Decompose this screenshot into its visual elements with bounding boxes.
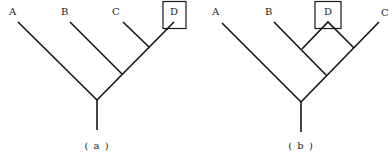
tree-b-leaf-label: D bbox=[324, 6, 332, 17]
tree-b-leaf-label: C bbox=[381, 7, 389, 18]
tree-a-edge-C bbox=[123, 22, 149, 47]
tree-b-edge-A bbox=[222, 23, 301, 102]
tree-b-leaf-label: B bbox=[265, 6, 272, 17]
tree-b-caption: ( b ) bbox=[288, 140, 314, 151]
tree-b: A B D C ( b ) bbox=[211, 2, 389, 152]
figure-canvas: A B C D ( a ) A B D C ( b ) bbox=[0, 0, 392, 156]
tree-a-leaf-label: C bbox=[112, 6, 120, 17]
tree-a-caption: ( a ) bbox=[84, 140, 109, 151]
tree-a-leaf-label: A bbox=[8, 6, 17, 17]
tree-b-leaf-label: A bbox=[211, 6, 220, 17]
tree-a: A B C D ( a ) bbox=[8, 2, 186, 152]
tree-b-edge-B bbox=[274, 22, 326, 75]
tree-a-leaf-label: D bbox=[170, 6, 178, 17]
tree-a-edge-B bbox=[70, 22, 122, 74]
tree-a-leaf-label: B bbox=[61, 6, 68, 17]
tree-a-edge-A bbox=[18, 22, 97, 100]
